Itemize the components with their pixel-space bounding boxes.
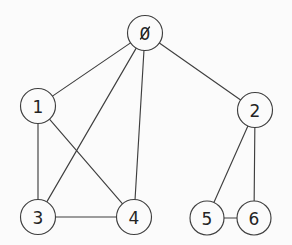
- node-label-5: 5: [202, 209, 213, 229]
- graph-node-4[interactable]: 4: [117, 200, 152, 235]
- edge-0-2: [159, 43, 240, 100]
- graph-node-5[interactable]: 5: [190, 201, 224, 235]
- graph-canvas: 0123456: [0, 0, 292, 245]
- graph-diagram: 0123456: [0, 0, 292, 245]
- node-label-4: 4: [129, 208, 140, 228]
- graph-node-1[interactable]: 1: [21, 89, 56, 124]
- graph-node-3[interactable]: 3: [21, 200, 56, 235]
- edge-0-4: [135, 50, 144, 199]
- graph-node-0[interactable]: 0: [128, 16, 163, 51]
- edge-1-4: [49, 119, 122, 204]
- node-layer: 0123456: [21, 16, 273, 236]
- edge-0-3: [47, 48, 136, 202]
- graph-node-2[interactable]: 2: [238, 93, 273, 128]
- edge-2-5: [214, 126, 248, 202]
- node-label-6: 6: [249, 209, 260, 229]
- node-label-3: 3: [33, 208, 44, 228]
- node-label-2: 2: [250, 101, 261, 121]
- graph-node-6[interactable]: 6: [237, 201, 271, 235]
- edge-layer: [38, 43, 255, 218]
- node-label-1: 1: [33, 97, 44, 117]
- edge-0-1: [52, 43, 130, 96]
- edge-2-6: [254, 128, 255, 202]
